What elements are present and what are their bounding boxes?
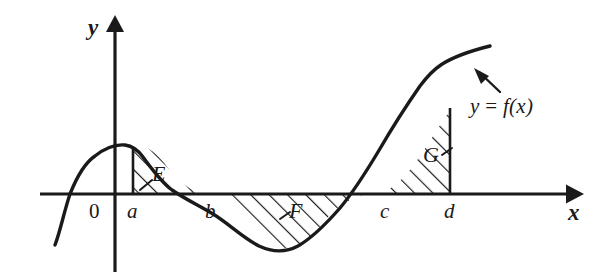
tick-label-c: c [380,201,389,222]
curve-label-equals: = [480,94,503,118]
origin-label: 0 [89,201,100,222]
figure-canvas: y x 0 a b c d E F G y = f(x) [0,0,607,278]
tick-label-d: d [444,201,455,222]
region-label-E: E [152,163,165,185]
x-axis-label: x [568,201,580,224]
diagram-svg [0,0,607,278]
curve-label-y: y [470,94,480,118]
curve-label-argument: (x) [509,94,533,118]
tick-label-a: a [127,201,138,222]
y-axis-label: y [88,16,98,39]
y-axis-arrowhead [106,15,124,32]
region-label-G: G [423,144,439,166]
curve-label-callout-arrowhead [474,68,489,84]
region-label-F: F [289,200,302,222]
tick-label-b: b [205,201,216,222]
curve-label: y = f(x) [470,96,533,117]
